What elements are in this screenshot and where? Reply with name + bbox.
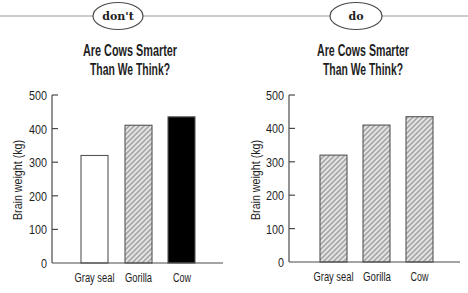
chart-title-line1: Are Cows Smarter — [317, 41, 409, 60]
bars — [81, 117, 195, 263]
comparison-figure: don't do Are Cows Smarter Than We Think?… — [0, 0, 468, 293]
bar-gorilla — [125, 125, 152, 263]
y-tick-label: 0 — [41, 256, 47, 271]
bar-gray-seal — [81, 155, 108, 263]
bar-cow — [406, 117, 433, 262]
y-tick-label: 200 — [266, 188, 284, 203]
y-tick-label: 100 — [266, 222, 284, 237]
dont-badge: don't — [93, 3, 143, 30]
y-tick-label: 100 — [29, 222, 47, 237]
y-tick-label: 400 — [266, 121, 284, 136]
y-tick-label: 300 — [29, 155, 47, 170]
y-tick-label: 400 — [29, 122, 47, 137]
chart-title-line2: Than We Think? — [323, 60, 403, 79]
bar-gorilla — [363, 125, 390, 262]
y-tick-label: 0 — [278, 255, 284, 270]
y-tick-label: 300 — [266, 155, 284, 170]
chart-title-line1: Are Cows Smarter — [83, 41, 177, 60]
x-category-label: Gray seal — [75, 270, 115, 285]
x-axis-labels: Gray seal Gorilla Cow — [75, 270, 192, 285]
x-category-label: Gorilla — [363, 269, 392, 284]
y-axis-label: Brain weight (kg) — [10, 140, 25, 220]
chart-title-line2: Than We Think? — [90, 60, 170, 79]
chart-do: Are Cows Smarter Than We Think? Brain we… — [248, 41, 460, 284]
y-axis: 500 400 300 200 100 0 — [29, 88, 58, 271]
chart-dont: Are Cows Smarter Than We Think? Brain we… — [10, 41, 223, 285]
do-label: do — [348, 10, 363, 23]
x-category-label: Gorilla — [125, 270, 153, 285]
x-category-label: Gray seal — [314, 269, 354, 284]
y-tick-label: 500 — [29, 88, 47, 103]
y-axis-label: Brain weight (kg) — [248, 140, 263, 220]
bar-gray-seal — [320, 155, 347, 262]
do-badge: do — [330, 3, 382, 30]
x-category-label: Cow — [411, 269, 429, 284]
x-axis-labels: Gray seal Gorilla Cow — [314, 269, 429, 284]
bar-cow — [168, 117, 195, 263]
bars — [320, 117, 433, 262]
y-tick-label: 200 — [29, 189, 47, 204]
dont-label: don't — [102, 10, 134, 23]
x-category-label: Cow — [173, 270, 191, 285]
y-axis: 500 400 300 200 100 0 — [266, 88, 295, 270]
header-rule: don't do — [0, 3, 468, 30]
y-tick-label: 500 — [266, 88, 284, 103]
